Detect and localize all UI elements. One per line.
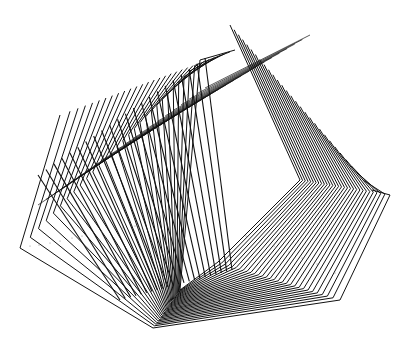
stipple-dot bbox=[71, 237, 72, 238]
stipple-dot bbox=[259, 240, 260, 241]
stipple-dot bbox=[316, 263, 317, 264]
line-art-canvas bbox=[0, 0, 414, 348]
stipple-dot bbox=[49, 242, 50, 243]
stipple-dot bbox=[134, 225, 135, 226]
stipple-dot bbox=[121, 227, 122, 228]
stipple-dot bbox=[324, 269, 325, 270]
stipple-dot bbox=[59, 240, 60, 241]
stipple-dot bbox=[101, 231, 102, 232]
stipple-dot bbox=[334, 272, 335, 273]
stipple-dot bbox=[38, 244, 39, 245]
stipple-dot bbox=[288, 251, 289, 252]
stipple-dot bbox=[81, 235, 82, 236]
stipple-dot bbox=[273, 245, 274, 246]
stipple-dot bbox=[245, 235, 246, 236]
stipple-dot bbox=[29, 245, 30, 246]
stipple-dot bbox=[301, 257, 302, 258]
generative-line-drawing bbox=[0, 0, 414, 348]
